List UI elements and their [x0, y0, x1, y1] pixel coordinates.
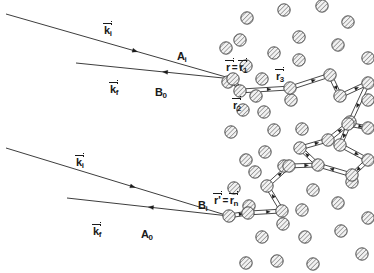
scatterer-circle	[293, 31, 305, 43]
path-node-scatterer	[342, 118, 354, 130]
position-rprime-equals-rn-left-base: r'	[214, 195, 221, 206]
k-incident-upper-base: k	[104, 25, 110, 36]
position-r-equals-r1-right-base: r	[239, 62, 243, 73]
path-node-scatterer	[242, 207, 254, 219]
scatterer-circle	[277, 218, 289, 230]
path-node-scatterer	[223, 210, 235, 222]
path-label-B-0-subscript: 0	[162, 91, 166, 100]
path-node-scatterer	[334, 90, 346, 102]
k-incident-lower: ki	[76, 153, 84, 170]
path-node-scatterer	[334, 139, 346, 151]
path-label-A-i-subscript: i	[184, 55, 186, 64]
scatterer-circle	[296, 123, 308, 135]
scatterer-circle	[250, 90, 262, 102]
scatterer-circle	[259, 146, 271, 158]
diagram-canvas	[0, 0, 374, 273]
k-final-lower-base: k	[93, 226, 99, 237]
k-final-lower: kf	[93, 222, 101, 239]
scatterer-circle	[234, 34, 246, 46]
position-r-3: r3	[276, 67, 284, 84]
position-rprime-equals-rn-right-base: r	[230, 195, 234, 206]
scatterer-circle	[307, 258, 319, 270]
path-node-scatterer	[346, 169, 358, 181]
path-node-scatterer	[261, 180, 273, 192]
path-label-B-0: B0	[155, 83, 167, 100]
scatterer-circle	[307, 184, 319, 196]
position-rprime-equals-rn: r'=rn	[214, 191, 238, 208]
path-label-A-i: Ai	[177, 47, 187, 64]
scatterer-circle	[268, 124, 280, 136]
scattering-diagram-figure: kikfAiB0kikfBiA0r2r3r=r1r'=rn	[0, 0, 374, 273]
scatterer-circle	[241, 12, 253, 24]
scatterer-circle	[332, 197, 344, 209]
scatterer-circle	[256, 73, 268, 85]
path-label-A-0: A0	[141, 225, 153, 242]
position-r-equals-r1-equals: =	[232, 62, 238, 73]
position-r-3-subscript: 3	[280, 75, 284, 84]
scatterer-circle	[249, 166, 261, 178]
scatterer-circle	[225, 126, 237, 138]
scatterer-circle	[362, 212, 374, 224]
path-node-scatterer	[362, 122, 374, 134]
position-r-equals-r1-right-subscript: 1	[243, 66, 247, 75]
scatterer-circle	[271, 255, 283, 267]
scatterer-circle	[362, 94, 374, 106]
position-r-2: r2	[233, 96, 241, 113]
position-rprime-equals-rn-right-subscript: n	[234, 199, 239, 208]
scatterer-circle	[256, 231, 268, 243]
path-node-scatterer	[284, 82, 296, 94]
scatterer-circle	[316, 0, 328, 12]
scatterer-circle	[278, 4, 290, 16]
k-final-upper: kf	[110, 80, 118, 97]
path-node-scatterer	[294, 142, 306, 154]
path-node-scatterer	[312, 159, 324, 171]
scatterer-circle	[240, 257, 252, 269]
scatterer-circle	[335, 225, 347, 237]
path-node-scatterer	[362, 77, 374, 89]
position-rprime-equals-rn-equals: =	[222, 195, 228, 206]
position-r-2-base: r	[233, 100, 237, 111]
k-incident-lower-base: k	[76, 157, 82, 168]
position-r-3-base: r	[276, 71, 280, 82]
position-r-2-subscript: 2	[237, 104, 241, 113]
path-node-scatterer	[322, 134, 334, 146]
scatterer-circle	[362, 52, 374, 64]
path-node-scatterer	[362, 154, 374, 166]
scatterer-circle	[332, 39, 344, 51]
path-node-circles-group	[223, 69, 374, 222]
path-node-scatterer	[283, 160, 295, 172]
path-label-B-i: Bi	[198, 196, 208, 213]
path-label-A-0-subscript: 0	[148, 233, 152, 242]
path-node-scatterer	[324, 69, 336, 81]
scatterer-circle	[258, 106, 270, 118]
upper-outgoing-beam	[76, 63, 233, 79]
scatterer-circles-group	[220, 0, 374, 270]
scatterer-circle	[296, 204, 308, 216]
scatterer-circle	[342, 16, 354, 28]
beam-lines-group	[6, 14, 233, 216]
upper-incident-beam	[6, 14, 233, 79]
path-label-B-i-subscript: i	[205, 204, 207, 213]
path-node-scatterer	[276, 205, 288, 217]
scatterer-circle	[285, 94, 297, 106]
scatterer-circle	[356, 248, 368, 260]
position-r-equals-r1-left-base: r	[226, 62, 230, 73]
k-final-upper-base: k	[110, 84, 116, 95]
position-r-equals-r1: r=r1	[226, 58, 247, 75]
scatterer-circle	[240, 154, 252, 166]
scatterer-circle	[293, 54, 305, 66]
scatterer-circle	[268, 47, 280, 59]
lower-incident-beam	[6, 148, 229, 216]
k-incident-upper: ki	[104, 21, 112, 38]
scatterer-circle	[220, 42, 232, 54]
scatterer-circle	[299, 231, 311, 243]
